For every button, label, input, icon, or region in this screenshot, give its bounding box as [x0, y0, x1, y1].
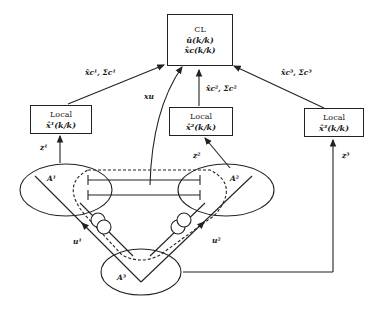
- cl-x-estimate: x̂c(k/k): [184, 45, 215, 55]
- label-u1: u¹: [73, 237, 82, 246]
- label-z1: z¹: [40, 143, 48, 152]
- label-z3: z³: [342, 151, 350, 160]
- area-a2: [178, 164, 274, 216]
- label-to-cl-1: x̂c¹, Σc¹: [85, 68, 116, 77]
- local-box-2: Local x̂²(k/k): [169, 107, 233, 136]
- local-box-1: Local x̂¹(k/k): [30, 105, 92, 134]
- cl-title: CL: [194, 25, 205, 35]
- local-1-title: Local: [50, 110, 72, 120]
- label-z2: z²: [193, 151, 201, 160]
- label-to-cl-2: x̂c², Σc²: [206, 84, 237, 93]
- label-to-cl-3: x̂c³, Σc³: [281, 68, 312, 77]
- label-area-a1: A¹: [47, 174, 56, 183]
- local-box-3: Local x̂³(k/k): [304, 108, 364, 137]
- local-1-estimate: x̂¹(k/k): [46, 120, 76, 130]
- cl-u-estimate: û(k/k): [186, 35, 213, 45]
- label-area-a2: A²: [230, 174, 239, 183]
- label-u2: u²: [212, 236, 221, 245]
- central-controller-box: CL û(k/k) x̂c(k/k): [167, 14, 233, 66]
- local-2-title: Local: [190, 112, 212, 122]
- label-area-a3: A³: [117, 273, 126, 282]
- local-3-title: Local: [323, 113, 345, 123]
- local-2-estimate: x̂²(k/k): [186, 122, 216, 132]
- area-a1: [20, 164, 112, 216]
- label-xu: xu: [144, 92, 154, 101]
- edge-u2: [141, 176, 252, 282]
- local-3-estimate: x̂³(k/k): [319, 123, 349, 133]
